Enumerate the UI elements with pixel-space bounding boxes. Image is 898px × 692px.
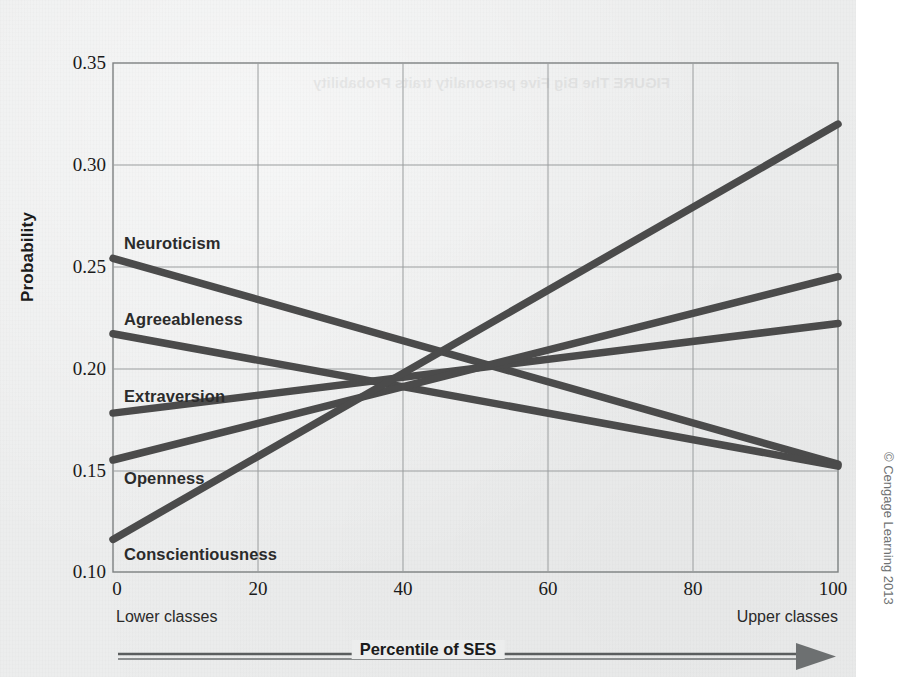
x-tick-2: 40 — [394, 578, 413, 600]
upper-classes-note: Upper classes — [737, 608, 838, 626]
series-label-openness: Openness — [124, 469, 205, 488]
x-tick-5: 100 — [819, 578, 848, 600]
x-tick-4: 80 — [684, 578, 703, 600]
line-chart — [0, 0, 856, 677]
x-tick-1: 20 — [249, 578, 268, 600]
scanned-figure-panel: FIGURE The Big Five personality traits P… — [0, 0, 856, 677]
series-line-conscientiousness — [113, 124, 838, 539]
chart-svg — [0, 0, 856, 677]
y-tick-3: 0.20 — [40, 358, 106, 380]
x-tick-0: 0 — [112, 578, 122, 600]
series-label-extraversion: Extraversion — [124, 387, 225, 406]
lower-classes-note: Lower classes — [116, 608, 217, 626]
figure-page: FIGURE The Big Five personality traits P… — [0, 0, 898, 692]
y-tick-0: 0.35 — [40, 52, 106, 74]
y-tick-5: 0.10 — [40, 561, 106, 583]
x-tick-3: 60 — [539, 578, 558, 600]
y-axis-ticks: 0.35 0.30 0.25 0.20 0.15 0.10 — [38, 0, 106, 600]
series-label-agreeableness: Agreeableness — [124, 310, 243, 329]
y-tick-2: 0.25 — [40, 256, 106, 278]
series-label-conscientiousness: Conscientiousness — [124, 545, 277, 564]
series-label-neuroticism: Neuroticism — [124, 234, 220, 253]
y-tick-4: 0.15 — [40, 460, 106, 482]
copyright-notice: © Cengage Learning 2013 — [881, 452, 896, 652]
y-axis-label: Probability — [18, 162, 38, 302]
x-axis-title: Percentile of SES — [352, 640, 505, 659]
y-tick-1: 0.30 — [40, 154, 106, 176]
